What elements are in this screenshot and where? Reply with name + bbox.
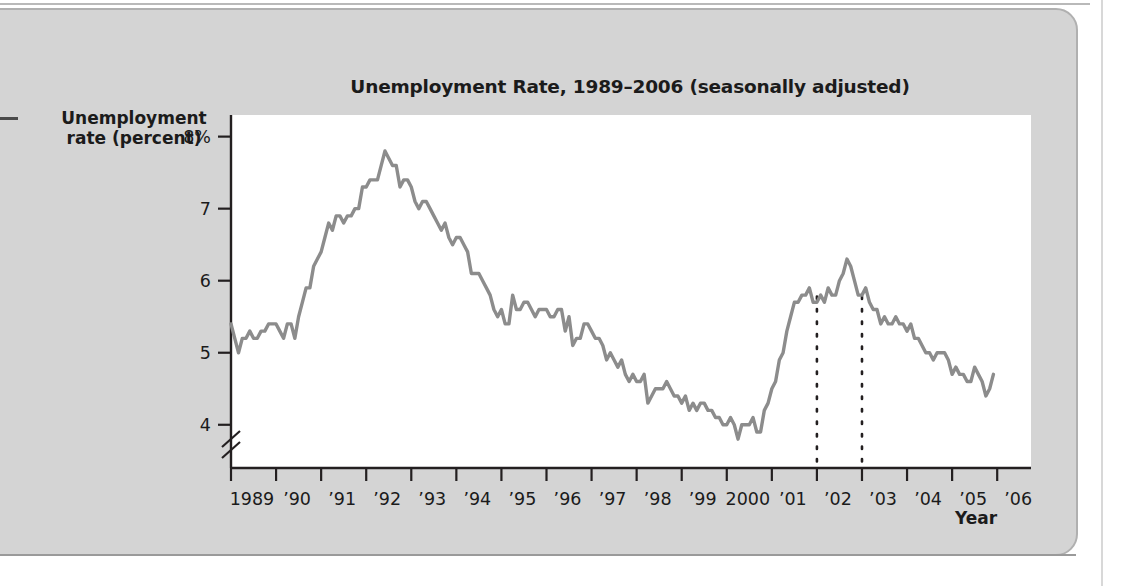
x-tick-label: ’92 — [373, 489, 401, 509]
x-tick-label: ’02 — [824, 489, 852, 509]
plot-background — [231, 115, 1031, 468]
y-tick-label: 7 — [200, 199, 211, 219]
figure-page: Unemployment Rate, 1989–2006 (seasonally… — [0, 0, 1126, 586]
x-tick-label: ’90 — [283, 489, 311, 509]
x-tick-label: 1989 — [230, 489, 275, 509]
x-tick-label: ’01 — [779, 489, 807, 509]
x-tick-label: ’03 — [869, 489, 897, 509]
x-tick-label: ’05 — [959, 489, 987, 509]
chart-svg: 45678%1989’90’91’92’93’94’95’96’97’98’99… — [0, 0, 1126, 586]
x-tick-label: ’94 — [463, 489, 491, 509]
x-tick-label: ’98 — [644, 489, 672, 509]
x-tick-label: ’04 — [914, 489, 942, 509]
y-tick-label: 6 — [200, 271, 211, 291]
x-tick-label: ’06 — [1004, 489, 1032, 509]
x-tick-label: ’99 — [689, 489, 717, 509]
y-tick-label: 5 — [200, 343, 211, 363]
x-tick-label: ’96 — [554, 489, 582, 509]
x-tick-label: ’91 — [328, 489, 356, 509]
y-tick-label: 4 — [200, 415, 211, 435]
x-tick-label: ’95 — [509, 489, 537, 509]
x-tick-label: ’93 — [418, 489, 446, 509]
y-tick-label: 8% — [183, 127, 211, 147]
plot-area: 45678%1989’90’91’92’93’94’95’96’97’98’99… — [0, 0, 1126, 586]
x-tick-label: ’97 — [599, 489, 627, 509]
x-tick-label: 2000 — [726, 489, 771, 509]
